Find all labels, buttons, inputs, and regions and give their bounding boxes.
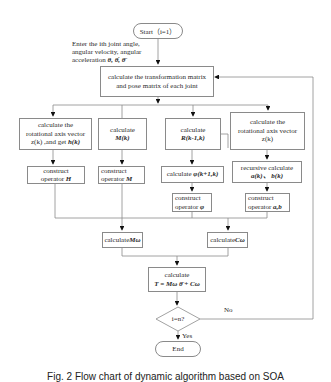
text: recursive calculate xyxy=(241,164,293,173)
text: z(k) ,and get xyxy=(31,138,68,146)
text: rotational axis vector xyxy=(238,127,297,136)
start-node: Start（i=1） xyxy=(133,23,183,39)
construct-operator-h-box: construct operator H xyxy=(27,166,85,184)
text: calculate the xyxy=(38,121,73,130)
text: operator xyxy=(248,203,273,211)
calc-rotational-axis-h-box: calculate the rotational axis vector z(k… xyxy=(19,118,92,150)
calc-m-omega-box: calculateMω xyxy=(102,232,143,248)
construct-operator-phi-box: construct operator φ xyxy=(172,193,212,212)
main-box-line1: calculate the transformation matrix xyxy=(108,73,206,82)
calc-phi-box: calculate φ(k+1,k) xyxy=(161,166,224,183)
symbol: Cω xyxy=(235,236,245,244)
text: calculate xyxy=(210,236,235,244)
symbol: h(k) xyxy=(68,138,80,146)
text: operator xyxy=(101,175,126,183)
text: calculate xyxy=(181,126,206,135)
recursive-calc-ab-box: recursive calculate a(k)、 b(k) xyxy=(232,161,302,183)
input-note-line2: angular velocity, angular xyxy=(72,48,162,56)
symbol: R(k-1,k) xyxy=(181,134,205,143)
no-label: No xyxy=(224,306,233,314)
symbol: Mω xyxy=(129,236,140,244)
calc-m-k-box: calculate M(k) xyxy=(98,118,147,150)
input-note-symbols: θ, θ̇, θ̈ xyxy=(108,56,126,64)
input-note-line3: acceleration xyxy=(72,56,106,64)
text: calculate xyxy=(165,271,190,280)
text: construct xyxy=(101,167,127,176)
input-note: Enter the ith joint angle, angular veloc… xyxy=(72,40,162,64)
text: calculate the xyxy=(250,118,285,127)
decision-label: i=n? xyxy=(160,315,196,323)
symbol: H xyxy=(66,175,71,183)
text: operator xyxy=(41,175,66,183)
text: construct xyxy=(175,194,201,203)
construct-operator-m-box: construct operator M xyxy=(98,166,145,184)
text: calculate xyxy=(167,170,194,178)
calc-rotational-axis-z-box: calculate the rotational axis vector z(k… xyxy=(230,112,305,150)
text: z(k) xyxy=(262,135,273,144)
transformation-matrix-box: calculate the transformation matrix and … xyxy=(100,66,214,97)
torque-formula: T = Mω θ̈ + Cω xyxy=(154,280,200,289)
calc-c-omega-box: calculateCω xyxy=(207,232,248,248)
symbol: φ xyxy=(200,203,204,211)
text: calculate xyxy=(110,126,135,135)
main-box-line2: and pose matrix of each joint xyxy=(116,82,197,91)
calc-r-box: calculate R(k-1,k) xyxy=(165,118,221,150)
figure-caption: Fig. 2 Flow chart of dynamic algorithm b… xyxy=(0,371,331,382)
calc-torque-box: calculate T = Mω θ̈ + Cω xyxy=(148,267,206,292)
text: operator xyxy=(175,203,200,211)
symbol: φ(k+1,k) xyxy=(193,170,218,178)
end-node: End xyxy=(155,341,201,357)
symbol: a(k)、 b(k) xyxy=(251,172,283,181)
end-label: End xyxy=(172,345,183,353)
start-label: Start（i=1） xyxy=(140,26,177,36)
text: rotational axis vector xyxy=(26,130,85,139)
symbol: M xyxy=(126,175,132,183)
yes-label: Yes xyxy=(182,332,192,340)
input-note-line1: Enter the ith joint angle, xyxy=(72,40,162,48)
text: calculate xyxy=(104,236,129,244)
text: construct xyxy=(43,167,69,176)
construct-operator-ab-box: construct operator a,b xyxy=(245,193,290,212)
symbol: a,b xyxy=(273,203,282,211)
symbol: M(k) xyxy=(115,134,129,143)
text: construct xyxy=(248,194,274,203)
